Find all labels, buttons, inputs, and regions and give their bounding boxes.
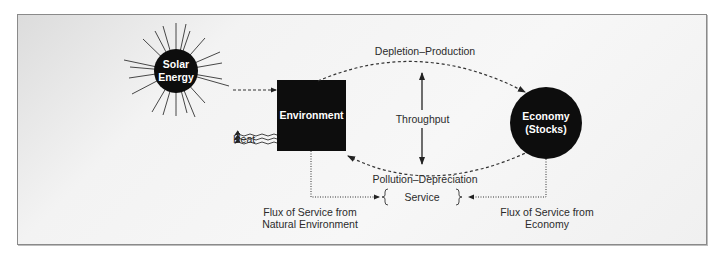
- service-right-brace: [456, 189, 462, 205]
- service-label: Service: [392, 191, 452, 203]
- heat-label: Heat: [233, 133, 255, 145]
- flux-econ-line1: Flux of Service from: [492, 206, 602, 218]
- solar-label-line2: Energy: [151, 71, 201, 84]
- economy-label-line1: Economy: [506, 110, 586, 123]
- solar-energy-label: Solar Energy: [151, 58, 201, 84]
- economy-label-line2: (Stocks): [506, 123, 586, 136]
- flux-econ-line2: Economy: [492, 218, 602, 230]
- environment-label: Environment: [277, 109, 346, 122]
- pollution-depreciation-label: Pollution–Depreciation: [365, 173, 485, 185]
- solar-label-line1: Solar: [151, 58, 201, 71]
- flux-economy-label: Flux of Service from Economy: [492, 206, 602, 230]
- economy-label: Economy (Stocks): [506, 110, 586, 136]
- flux-environment-label: Flux of Service from Natural Environment: [255, 206, 365, 230]
- depletion-production-label: Depletion–Production: [360, 45, 490, 57]
- flux-env-line1: Flux of Service from: [255, 206, 365, 218]
- service-left-brace: [382, 189, 388, 205]
- flux-env-line2: Natural Environment: [255, 218, 365, 230]
- throughput-label: Throughput: [385, 113, 460, 125]
